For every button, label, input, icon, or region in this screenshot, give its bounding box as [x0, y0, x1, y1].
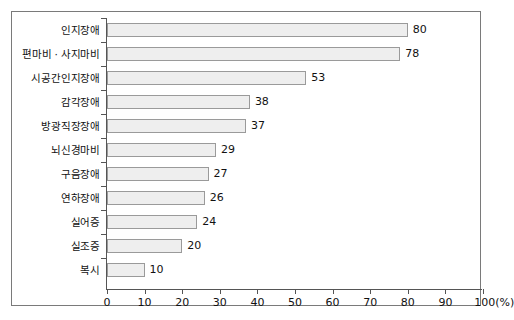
bar — [107, 143, 216, 157]
x-axis-tick-label: 70 — [363, 296, 377, 309]
y-axis-tick — [101, 114, 107, 115]
bar — [107, 23, 408, 37]
bar — [107, 191, 205, 205]
plot-area: 인지장애80편마비 · 사지마비78시공간인지장애53감각장애38방광직장장애3… — [12, 12, 482, 305]
y-axis-tick — [101, 234, 107, 235]
y-axis-tick — [101, 42, 107, 43]
x-axis-tick-label: 60 — [326, 296, 340, 309]
x-axis-tick — [295, 289, 296, 294]
category-label: 시공간인지장애 — [31, 66, 100, 90]
x-axis-tick-label: 100(%) — [474, 296, 514, 309]
x-axis-tick-label: 50 — [288, 296, 302, 309]
y-axis-tick — [101, 210, 107, 211]
category-label: 실조증 — [71, 234, 100, 258]
y-axis-tick — [101, 162, 107, 163]
bar-value-label: 27 — [214, 162, 228, 186]
bar-value-label: 10 — [150, 258, 164, 282]
category-label: 복시 — [80, 258, 100, 282]
category-label: 실어증 — [71, 210, 100, 234]
category-label: 인지장애 — [61, 18, 100, 42]
y-axis-tick — [101, 66, 107, 67]
bar-value-label: 29 — [221, 138, 235, 162]
bar — [107, 167, 209, 181]
x-axis-tick — [257, 289, 258, 294]
bar-row: 구음장애27 — [12, 162, 482, 186]
x-axis-tick — [445, 289, 446, 294]
x-axis-tick — [145, 289, 146, 294]
y-axis-tick — [101, 138, 107, 139]
bar — [107, 95, 250, 109]
x-axis-tick — [182, 289, 183, 294]
bar-row: 시공간인지장애53 — [12, 66, 482, 90]
category-label: 구음장애 — [61, 162, 100, 186]
y-axis-tick — [101, 186, 107, 187]
x-axis-tick-label: 30 — [213, 296, 227, 309]
bar — [107, 263, 145, 277]
bar — [107, 239, 182, 253]
x-axis-tick-label: 90 — [438, 296, 452, 309]
category-label: 편마비 · 사지마비 — [22, 42, 100, 66]
category-label: 방광직장장애 — [41, 114, 100, 138]
x-axis-tick — [107, 289, 108, 294]
bar-value-label: 38 — [255, 90, 269, 114]
x-axis-tick — [483, 289, 484, 294]
bar-row: 편마비 · 사지마비78 — [12, 42, 482, 66]
y-axis-tick — [101, 90, 107, 91]
category-label: 뇌신경마비 — [51, 138, 100, 162]
x-axis-tick — [408, 289, 409, 294]
bar-row: 복시10 — [12, 258, 482, 282]
bar-value-label: 37 — [251, 114, 265, 138]
bar-row: 실조증20 — [12, 234, 482, 258]
x-axis-tick-label: 80 — [401, 296, 415, 309]
x-axis-tick-label: 10 — [138, 296, 152, 309]
bar-value-label: 24 — [202, 210, 216, 234]
bar — [107, 47, 400, 61]
x-axis-tick — [370, 289, 371, 294]
y-axis-tick — [101, 18, 107, 19]
bar — [107, 215, 197, 229]
bar-row: 뇌신경마비29 — [12, 138, 482, 162]
bar-row: 실어증24 — [12, 210, 482, 234]
x-axis-tick-label: 20 — [175, 296, 189, 309]
x-axis-tick — [220, 289, 221, 294]
bar-row: 연하장애26 — [12, 186, 482, 210]
bar-value-label: 53 — [311, 66, 325, 90]
bar-row: 방광직장장애37 — [12, 114, 482, 138]
x-axis-tick — [333, 289, 334, 294]
chart-frame: 인지장애80편마비 · 사지마비78시공간인지장애53감각장애38방광직장장애3… — [11, 11, 481, 306]
category-label: 연하장애 — [61, 186, 100, 210]
bar-value-label: 78 — [405, 42, 419, 66]
x-axis-tick-label: 0 — [104, 296, 111, 309]
bar-row: 감각장애38 — [12, 90, 482, 114]
y-axis-tick — [101, 258, 107, 259]
bar-value-label: 20 — [187, 234, 201, 258]
category-label: 감각장애 — [61, 90, 100, 114]
bars-layer: 인지장애80편마비 · 사지마비78시공간인지장애53감각장애38방광직장장애3… — [12, 12, 482, 305]
bar-value-label: 26 — [210, 186, 224, 210]
bar-value-label: 80 — [413, 18, 427, 42]
bar — [107, 119, 246, 133]
bar-row: 인지장애80 — [12, 18, 482, 42]
bar — [107, 71, 306, 85]
x-axis-tick-label: 40 — [250, 296, 264, 309]
